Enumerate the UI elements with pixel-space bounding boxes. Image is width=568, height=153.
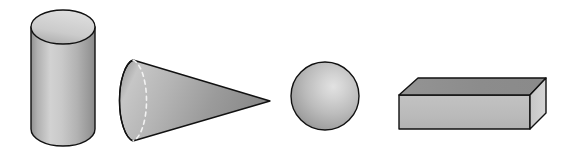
cylinder-shape: [31, 10, 95, 146]
prism-front-face: [399, 95, 530, 129]
cylinder-top-face: [31, 10, 95, 44]
solids-illustration: [0, 0, 568, 153]
prism-top-face: [399, 78, 546, 95]
rectangular-prism-shape: [399, 78, 546, 129]
sphere-body: [291, 62, 359, 130]
sphere-shape: [291, 62, 359, 130]
geometric-solids-figure: Cylinder Cone Sphere Rectangular Prism: [0, 0, 568, 153]
cylinder-lateral-surface: [31, 27, 95, 146]
cone-shape: [119, 60, 270, 141]
